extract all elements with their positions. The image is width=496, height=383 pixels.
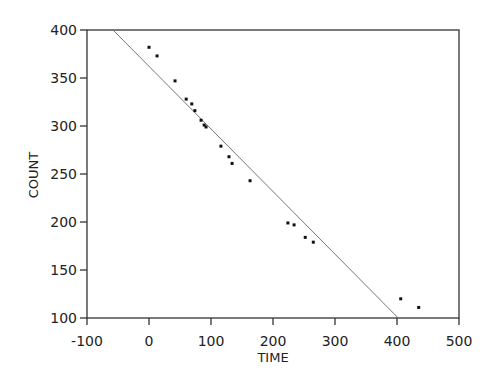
data-point — [231, 162, 234, 165]
plot-border — [87, 30, 459, 318]
x-tick-label: -100 — [71, 333, 103, 349]
x-tick-label: 100 — [198, 333, 225, 349]
data-point — [205, 125, 208, 128]
y-tick-label: 350 — [50, 70, 77, 86]
x-axis-title: TIME — [256, 350, 288, 365]
data-point — [193, 109, 196, 112]
x-tick-label: 400 — [384, 333, 411, 349]
data-point — [219, 145, 222, 148]
y-tick-label: 200 — [50, 214, 77, 230]
y-tick-label: 250 — [50, 166, 77, 182]
x-tick-label: 0 — [145, 333, 154, 349]
y-tick-label: 300 — [50, 118, 77, 134]
data-points — [148, 46, 421, 309]
x-tick-label: 500 — [446, 333, 473, 349]
y-tick-label: 100 — [50, 310, 77, 326]
data-point — [399, 297, 402, 300]
data-point — [200, 119, 203, 122]
data-point — [185, 98, 188, 101]
plot-frame — [87, 30, 459, 318]
y-tick-label: 150 — [50, 262, 77, 278]
data-point — [156, 54, 159, 57]
x-tick-label: 300 — [322, 333, 349, 349]
y-tick-label: 400 — [50, 22, 77, 38]
data-point — [148, 46, 151, 49]
data-point — [190, 102, 193, 105]
y-axis: 100150200250300350400 — [50, 22, 87, 326]
data-point — [304, 236, 307, 239]
x-tick-label: 200 — [260, 333, 287, 349]
y-axis-title: COUNT — [26, 152, 41, 199]
data-point — [293, 223, 296, 226]
data-point — [249, 179, 252, 182]
data-point — [286, 221, 289, 224]
x-axis: -1000100200300400500 — [71, 318, 472, 349]
scatter-chart: -1000100200300400500 1001502002503003504… — [0, 0, 496, 383]
data-point — [227, 155, 230, 158]
data-point — [312, 241, 315, 244]
fit-line-path — [113, 30, 398, 318]
data-point — [417, 306, 420, 309]
data-point — [174, 79, 177, 82]
fitted-line — [113, 30, 398, 318]
